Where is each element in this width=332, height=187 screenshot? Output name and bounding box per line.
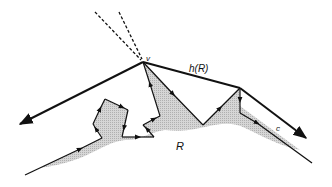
region-r [40,62,300,168]
region-label: R [176,140,184,152]
diagram: v h(R) R c [0,0,332,187]
dashed-ray-left [95,12,141,60]
hull-label: h(R) [189,63,208,74]
dashed-ray-right [119,12,142,59]
vertex-label: v [146,54,151,63]
chain-label: c [276,124,280,133]
